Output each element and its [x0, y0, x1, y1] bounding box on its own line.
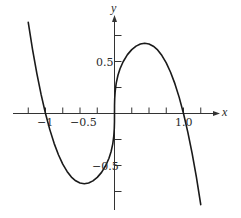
y-axis-label: y	[111, 2, 116, 14]
y-axis-arrow-icon	[112, 15, 117, 22]
x-tick-label-neg05: −0.5	[70, 117, 97, 128]
axes	[13, 15, 220, 210]
y-tick-label-neg05: −0.5	[92, 161, 119, 172]
x-axis-label: x	[222, 106, 227, 118]
x-tick-label-neg1: −1	[37, 117, 53, 128]
x-axis-arrow-icon	[213, 111, 220, 116]
function-plot	[0, 0, 241, 218]
y-tick-label-05: 0.5	[96, 57, 114, 68]
x-tick-label-1: 1.0	[175, 117, 193, 128]
